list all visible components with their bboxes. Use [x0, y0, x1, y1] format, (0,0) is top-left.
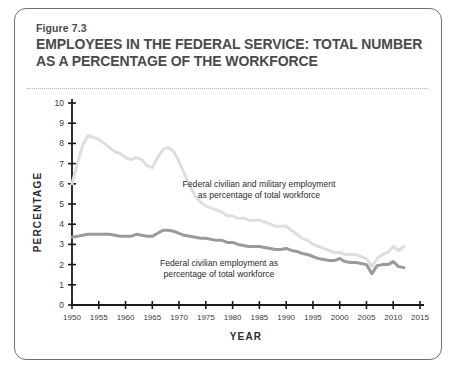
title-divider [27, 88, 429, 89]
chart-title-line-2: AS A PERCENTAGE OF THE WORKFORCE [36, 53, 318, 69]
chart-title-line-1: EMPLOYEES IN THE FEDERAL SERVICE: TOTAL … [36, 36, 422, 52]
figure-number-label: Figure 7.3 [36, 22, 87, 34]
chart-title: EMPLOYEES IN THE FEDERAL SERVICE: TOTAL … [36, 36, 426, 69]
